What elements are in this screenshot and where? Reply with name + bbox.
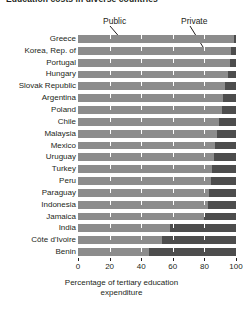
bar-segment-public (78, 201, 208, 209)
bar-segment-public (78, 177, 211, 185)
bar-row (78, 248, 236, 256)
bar-segment-private (217, 130, 236, 138)
category-label: Jamaica (0, 213, 76, 221)
category-axis-labels: GreeceKorea, Rep. ofPortugalHungarySlova… (0, 33, 76, 258)
category-label: Korea, Rep. of (0, 47, 76, 55)
category-label: Paraguay (0, 189, 76, 197)
category-label: Poland (0, 106, 76, 114)
gridline (141, 33, 142, 258)
bar-segment-public (78, 59, 230, 67)
bar-row (78, 118, 236, 126)
x-axis: 020406080100 (78, 258, 236, 262)
category-label: Argentina (0, 94, 76, 102)
x-axis-title-line1: Percentage of tertiary education (0, 278, 243, 288)
bar-row (78, 142, 236, 150)
category-label: Indonesia (0, 201, 76, 209)
x-axis-tick-label: 20 (105, 262, 114, 271)
x-axis-tick (78, 258, 79, 261)
x-axis-tick (204, 258, 205, 261)
bar-segment-public (78, 130, 217, 138)
bar-segment-public (78, 153, 214, 161)
bar-segment-public (78, 224, 170, 232)
category-label: Greece (0, 35, 76, 43)
category-label: Hungary (0, 70, 76, 78)
chart-figure: Education costs in diverse countries Pub… (0, 0, 243, 309)
x-axis-tick-label: 40 (137, 262, 146, 271)
category-label: Côte d'Ivoire (0, 236, 76, 244)
x-axis-tick-label: 0 (76, 262, 80, 271)
bar-row (78, 224, 236, 232)
gridline (173, 33, 174, 258)
x-axis-tick-label: 60 (168, 262, 177, 271)
x-axis-tick (236, 258, 237, 261)
category-label: Chile (0, 118, 76, 126)
bar-row (78, 153, 236, 161)
bar-segment-private (222, 106, 236, 114)
bar-row (78, 201, 236, 209)
x-axis-tick (110, 258, 111, 261)
bar-row (78, 35, 236, 43)
category-label: Slovak Republic (0, 82, 76, 90)
bar-segment-private (223, 94, 236, 102)
bar-row (78, 82, 236, 90)
bar-segment-private (231, 47, 236, 55)
bar-segment-private (212, 165, 236, 173)
bar-segment-public (78, 189, 209, 197)
bar-segment-private (230, 59, 236, 67)
bar-segment-private (215, 142, 236, 150)
bar-row (78, 71, 236, 79)
x-axis-title-line2: expenditure (0, 288, 243, 298)
bar-segment-private (219, 118, 236, 126)
bar-segment-public (78, 248, 149, 256)
bar-segment-private (204, 213, 236, 221)
bar-segment-public (78, 236, 162, 244)
bar-row (78, 106, 236, 114)
category-label: Malaysia (0, 130, 76, 138)
x-axis-tick (173, 258, 174, 261)
bar-segment-public (78, 94, 223, 102)
bar-segment-public (78, 165, 212, 173)
category-label: Benin (0, 248, 76, 256)
bar-row (78, 213, 236, 221)
bar-row (78, 165, 236, 173)
x-axis-tick-label: 80 (200, 262, 209, 271)
x-axis-title: Percentage of tertiary education expendi… (0, 278, 243, 298)
bar-segment-public (78, 106, 222, 114)
gridline (204, 33, 205, 258)
bar-segment-private (149, 248, 236, 256)
category-label: India (0, 224, 76, 232)
bar-row (78, 47, 236, 55)
bar-segment-public (78, 142, 215, 150)
bar-segment-private (234, 35, 236, 43)
bar-segment-private (214, 153, 236, 161)
bar-segment-private (225, 82, 236, 90)
bar-row (78, 236, 236, 244)
x-axis-tick-label: 100 (229, 262, 242, 271)
category-label: Portugal (0, 59, 76, 67)
x-axis-tick (141, 258, 142, 261)
gridline (110, 33, 111, 258)
bar-row (78, 177, 236, 185)
bar-row (78, 189, 236, 197)
bar-segment-public (78, 47, 231, 55)
bar-row (78, 130, 236, 138)
bar-segment-private (208, 201, 236, 209)
bar-segment-public (78, 35, 234, 43)
bar-segment-private (228, 71, 236, 79)
bar-segment-public (78, 71, 228, 79)
bar-row (78, 59, 236, 67)
bar-segment-public (78, 82, 225, 90)
bar-segment-private (170, 224, 236, 232)
plot-area (78, 33, 236, 258)
category-label: Peru (0, 177, 76, 185)
bar-row (78, 94, 236, 102)
bar-segment-private (211, 177, 236, 185)
bar-segment-private (209, 189, 236, 197)
category-label: Mexico (0, 142, 76, 150)
category-label: Turkey (0, 165, 76, 173)
category-label: Uruguay (0, 153, 76, 161)
bar-segment-public (78, 118, 219, 126)
